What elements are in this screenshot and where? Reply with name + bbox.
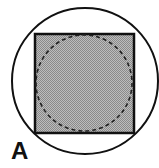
figure-label: A	[11, 139, 28, 163]
inscribed-square	[35, 34, 134, 133]
